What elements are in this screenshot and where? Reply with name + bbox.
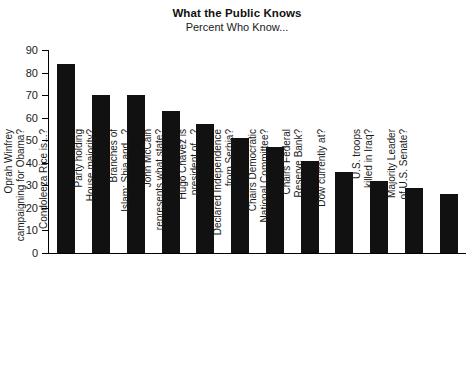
x-axis-label-text: Chairs DemocraticNational Committee?: [246, 129, 269, 256]
y-axis-tick-label: 30: [26, 177, 38, 193]
x-axis-label: Branches ofIslam: Shia and...?: [153, 256, 188, 383]
bar[interactable]: [440, 194, 458, 253]
x-axis-category-labels: Oprah Winfreycampaigning for Obama?Condo…: [49, 256, 466, 383]
x-axis-label: Hugo Chavez ispresident of...?: [223, 256, 258, 383]
x-axis-label-text: Hugo Chavez ispresident of...?: [177, 129, 200, 256]
y-axis-tick: 90: [42, 50, 48, 51]
x-axis-label-text: Dow currently at?: [316, 129, 328, 256]
bar-slot: [431, 50, 466, 253]
x-axis-label: Dow currently at?: [362, 256, 397, 383]
y-axis-tick-label: 90: [26, 42, 38, 58]
x-axis-label-text: Oprah Winfreycampaigning for Obama?: [3, 129, 26, 256]
x-axis-label-text: Majority Leaderof U.S. Senate?: [385, 129, 408, 256]
x-axis-label: U.S. troopskilled in Iraq?: [397, 256, 432, 383]
x-axis-label-text: John McCainrepresents what state?: [142, 129, 165, 256]
y-axis-tick: 60: [42, 118, 48, 119]
y-axis-tick-label: 80: [26, 65, 38, 81]
x-axis-label: Condoleeza Rice is...?: [84, 256, 119, 383]
x-axis-label: Majority Leaderof U.S. Senate?: [431, 256, 466, 383]
x-axis-label: Oprah Winfreycampaigning for Obama?: [49, 256, 84, 383]
y-axis-tick-label: 10: [26, 222, 38, 238]
x-axis-label-text: Condoleeza Rice is...?: [38, 129, 50, 256]
x-axis-label-text: Declared Independencefrom Serbia?: [211, 129, 234, 256]
x-axis-label: Chairs DemocraticNational Committee?: [292, 256, 327, 383]
x-axis-label-text: U.S. troopskilled in Iraq?: [350, 129, 373, 256]
y-axis-tick-label: 40: [26, 155, 38, 171]
y-axis-tick: 70: [42, 95, 48, 96]
x-axis-label-text: Chairs FederalReserve Bank?: [281, 129, 304, 256]
x-axis-label: Declared Independencefrom Serbia?: [258, 256, 293, 383]
x-axis-label: John McCainrepresents what state?: [188, 256, 223, 383]
y-axis-tick-label: 60: [26, 110, 38, 126]
chart-header: What the Public Knows Percent Who Know..…: [0, 6, 474, 35]
x-axis-label-text: Branches ofIslam: Shia and...?: [107, 129, 130, 256]
y-axis-tick-label: 20: [26, 200, 38, 216]
x-axis-label: Party holdingHouse majority?: [119, 256, 154, 383]
bar-chart: What the Public Knows Percent Who Know..…: [0, 0, 474, 383]
x-axis-label: Chairs FederalReserve Bank?: [327, 256, 362, 383]
x-axis-label-text: Party holdingHouse majority?: [72, 129, 95, 256]
y-axis-tick: 80: [42, 73, 48, 74]
chart-subtitle: Percent Who Know...: [0, 20, 474, 35]
y-axis-tick-label: 70: [26, 87, 38, 103]
y-axis-tick-label: 50: [26, 132, 38, 148]
chart-title: What the Public Knows: [0, 6, 474, 20]
